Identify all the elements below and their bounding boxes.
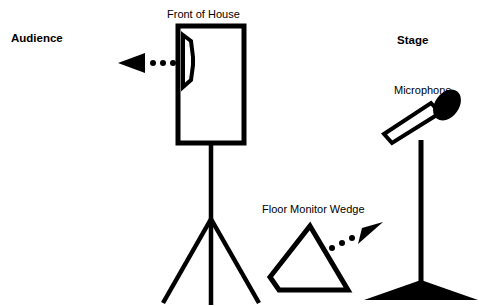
front-of-house-label: Front of House [167,8,240,20]
front-of-house-speaker-group [178,26,244,143]
diagram-canvas: Audience Stage Front of House Microphone… [0,0,479,306]
arrow-dot [339,240,345,246]
microphone-label: Microphone [394,84,451,96]
speaker-horn-driver [183,35,193,87]
arrow-dot [349,235,355,241]
arrow-dot [150,60,156,66]
arrow-dot [160,60,166,66]
audience-label: Audience [11,32,63,44]
arrow-dot [329,245,335,251]
stage-label: Stage [397,34,428,46]
arrow-dot [170,60,176,66]
floor-monitor-wedge-label: Floor Monitor Wedge [262,203,365,215]
stage-setup-diagram: Audience Stage Front of House Microphone… [0,0,479,306]
